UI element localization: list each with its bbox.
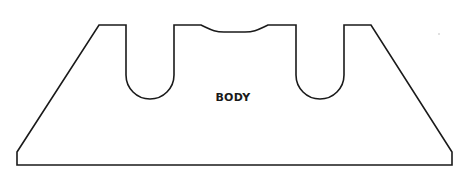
stray-dot — [438, 33, 440, 35]
body-label: BODY — [203, 91, 263, 104]
body-outline-diagram — [0, 0, 464, 175]
